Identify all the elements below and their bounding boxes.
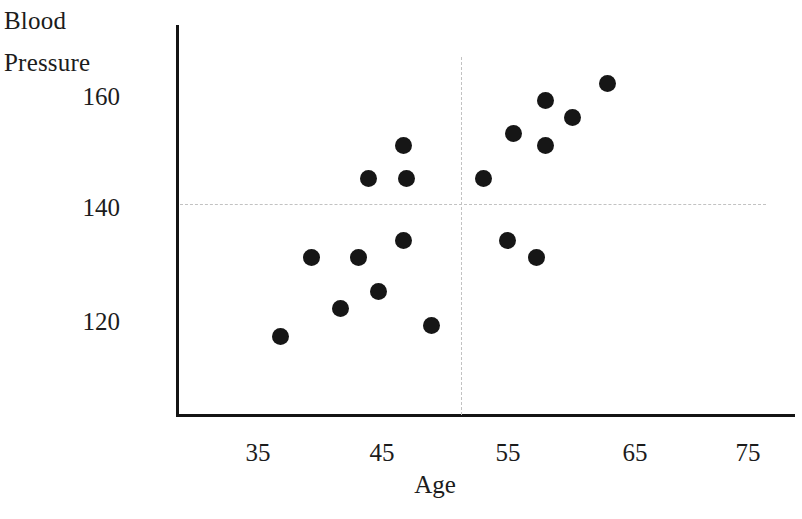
- data-point: [332, 300, 349, 317]
- data-point: [564, 109, 581, 126]
- data-point: [360, 170, 377, 187]
- data-point: [350, 249, 367, 266]
- data-point: [398, 170, 415, 187]
- x-axis-title-wrap: Age: [0, 471, 802, 499]
- data-point: [370, 283, 387, 300]
- data-points-layer: [0, 0, 802, 519]
- data-point: [537, 137, 554, 154]
- data-point: [303, 249, 320, 266]
- data-point: [528, 249, 545, 266]
- data-point: [505, 125, 522, 142]
- data-point: [272, 328, 289, 345]
- data-point: [395, 137, 412, 154]
- x-axis-title: Age: [414, 471, 456, 499]
- data-point: [395, 232, 412, 249]
- scatter-plot-figure: Blood Pressure 160 140 120 35 45 55 65 7…: [0, 0, 802, 519]
- data-point: [475, 170, 492, 187]
- data-point: [423, 317, 440, 334]
- data-point: [599, 75, 616, 92]
- data-point: [537, 92, 554, 109]
- data-point: [499, 232, 516, 249]
